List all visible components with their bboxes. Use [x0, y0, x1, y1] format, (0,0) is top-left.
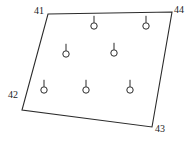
boundary-outline [22, 12, 172, 127]
marker-circle-icon [41, 87, 47, 93]
survey-marker [91, 16, 97, 29]
marker-circle-icon [63, 51, 69, 57]
survey-marker [127, 80, 133, 93]
marker-circle-icon [143, 23, 149, 29]
marker-circle-icon [127, 87, 133, 93]
survey-marker [83, 80, 89, 93]
marker-group [41, 16, 149, 93]
survey-marker [143, 16, 149, 29]
corner-label-42: 42 [8, 90, 18, 100]
corner-label-43: 43 [155, 124, 165, 134]
survey-plot-figure: 41 44 42 43 [0, 0, 191, 143]
marker-circle-icon [111, 50, 117, 56]
marker-circle-icon [91, 23, 97, 29]
survey-marker [63, 44, 69, 57]
quadrilateral-boundary [22, 12, 172, 127]
corner-label-41: 41 [34, 6, 44, 16]
survey-marker [41, 80, 47, 93]
corner-label-44: 44 [174, 5, 184, 15]
survey-marker [111, 43, 117, 56]
diagram-canvas [0, 0, 191, 143]
marker-circle-icon [83, 87, 89, 93]
